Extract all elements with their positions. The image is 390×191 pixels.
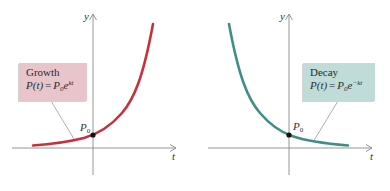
decay-initial-point [286,132,291,137]
decay-p0-label: P0 [292,120,304,134]
decay-formula: P(t)=P0e−kt [310,79,369,92]
growth-callout-leader [51,101,74,139]
decay-t-label: t [370,150,374,162]
decay-title: Decay [310,66,369,79]
growth-formula: P(t)=P0ekt [26,79,81,92]
growth-callout-box: Growth P(t)=P0ekt [19,63,87,101]
growth-initial-point [90,132,95,137]
decay-callout-box: Decay P(t)=P0e−kt [303,63,375,101]
growth-y-label: y [83,10,89,22]
growth-t-label: t [172,150,176,162]
growth-title: Growth [26,66,81,79]
decay-y-label: y [279,10,285,22]
decay-callout-leader [313,101,338,142]
growth-p0-label: P0 [79,121,91,135]
